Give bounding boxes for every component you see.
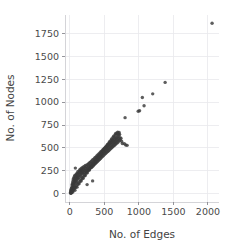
- data-point: [142, 104, 145, 107]
- y-tick-label-1000: 1000: [35, 96, 59, 107]
- data-point: [117, 131, 120, 134]
- data-point: [123, 116, 126, 119]
- y-tick-label-1750: 1750: [35, 28, 59, 39]
- plot-svg: 0500100015002000 02505007501000125015001…: [0, 0, 240, 244]
- data-point: [138, 109, 141, 112]
- y-tick-label-750: 750: [41, 119, 59, 130]
- y-tick-label-1250: 1250: [35, 74, 59, 85]
- data-point: [85, 183, 88, 186]
- data-point: [119, 137, 122, 140]
- y-axis-title: No. of Nodes: [4, 74, 16, 141]
- x-tick-label-1000: 1000: [127, 206, 151, 217]
- data-point: [141, 96, 144, 99]
- scatter-chart-figure: 0500100015002000 02505007501000125015001…: [0, 0, 240, 244]
- data-point: [210, 22, 213, 25]
- x-tick-label-1500: 1500: [161, 206, 185, 217]
- data-point: [163, 81, 166, 84]
- y-tick-label-500: 500: [41, 142, 59, 153]
- data-point: [125, 144, 128, 147]
- y-tick-label-0: 0: [53, 188, 59, 199]
- y-tick-label-1500: 1500: [35, 51, 59, 62]
- x-tick-label-500: 500: [95, 206, 113, 217]
- data-point: [74, 166, 77, 169]
- data-point: [91, 179, 94, 182]
- y-tick-label-250: 250: [41, 165, 59, 176]
- x-tick-label-2000: 2000: [196, 206, 220, 217]
- data-point: [151, 92, 154, 95]
- x-tick-label-0: 0: [67, 206, 73, 217]
- x-axis-title: No. of Edges: [109, 228, 175, 240]
